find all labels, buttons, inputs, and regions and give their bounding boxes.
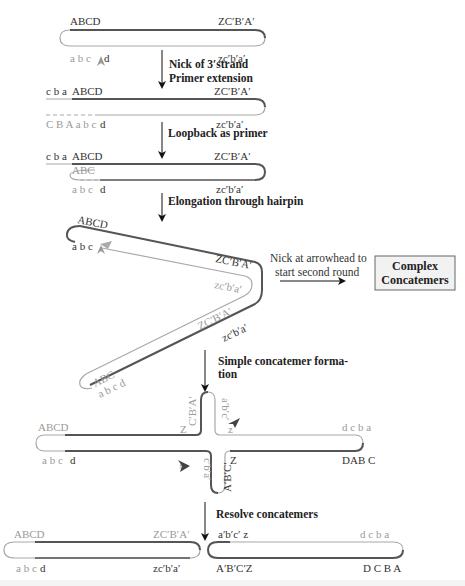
s5-left-top: ABCD — [38, 421, 69, 433]
s2-top-left: ABCD — [72, 85, 103, 97]
s6-left-bottom-right: zc′b′a′ — [153, 562, 180, 574]
s6-right-top-left: a′b′c′ z — [218, 528, 248, 540]
step-2-line1: Loopback as primer — [168, 127, 268, 140]
s6-right-top-right: d c b a — [360, 528, 389, 540]
s2-top-pre: c b a — [46, 85, 67, 97]
s6-right-bottom-right: D C B A — [363, 562, 401, 574]
s5-left-bottom-d: d — [70, 454, 76, 466]
s1-bottom-left: a b c — [70, 52, 91, 64]
stage-5-cross: ABCD a b c d C′B′A′ a′b′c′ Z z z c′b′a′ … — [36, 392, 375, 493]
s6-left-top-left: ABCD — [14, 528, 45, 540]
s1-bottom-d: d — [104, 52, 110, 64]
s5-lower-arm-right: A′B′C′ — [221, 462, 233, 492]
s5-z4: Z — [230, 454, 237, 466]
s5-z1: Z — [180, 423, 187, 435]
step-3: Elongation through hairpin — [162, 193, 304, 218]
s6-right-bottom-left: A′B′C′Z — [216, 562, 253, 574]
stage-2-hairpin: c b a ABCD ZC′B′A′ C B A a b c d zc′b′a′ — [46, 85, 265, 130]
s4-diag-upper: ZC′B′A′ — [196, 305, 234, 332]
s5-upper-arm-right: a′b′c′ — [220, 398, 232, 420]
step-4-line2: tion — [218, 368, 238, 380]
caption-strip — [0, 580, 465, 586]
s4-mid-lower: zc′b′a′ — [214, 278, 243, 295]
s3-top-left: ABCD — [72, 150, 103, 162]
s4-mid-upper: ZC′B′A′ — [215, 252, 253, 271]
s5-right-bottom: DAB C — [342, 454, 375, 466]
s5-lower-arm-left: c′b′a′ — [202, 458, 214, 480]
box-line1: Complex — [392, 259, 438, 273]
stage-6-right-hairpin: a′b′c′ z d c b a A′B′C′Z D C B A — [208, 528, 403, 574]
s5-upper-arm-left: C′B′A′ — [186, 396, 198, 426]
s5-z2: z — [228, 423, 233, 435]
side-note-line1: Nick at arrowhead to — [270, 252, 367, 264]
s6-left-bottom-d: d — [40, 562, 46, 574]
s4-diag-lower: zc′b′a′ — [220, 321, 250, 344]
side-note-line2: start second round — [275, 266, 360, 278]
step-5-line1: Resolve concatemers — [216, 508, 318, 520]
complex-concatemers-box: Complex Concatemers — [375, 256, 455, 290]
s2-bottom-d: d — [100, 118, 106, 130]
step-4-line1: Simple concatemer forma- — [218, 355, 348, 368]
s3-inner-left: ABC — [72, 164, 95, 176]
s2-top-right: ZC′B′A′ — [214, 85, 251, 97]
s4-top-left-lower: a b c — [72, 240, 93, 252]
step-1-line2: Primer extension — [169, 72, 253, 84]
s2-bottom-left: C B A a b c — [46, 118, 97, 130]
s6-left-top-right: ZC′B′A′ — [153, 528, 190, 540]
s1-top-right: ZC′B′A′ — [218, 15, 255, 27]
second-round-note: Nick at arrowhead to start second round — [270, 252, 367, 281]
s3-bottom-d: d — [100, 183, 106, 195]
s3-bottom-left: a b c — [72, 183, 93, 195]
s3-top-right: ZC′B′A′ — [214, 150, 251, 162]
s5-right-top: d c b a — [342, 421, 371, 433]
s3-top-pre: c b a — [46, 150, 67, 162]
stage-6-left-hairpin: ABCD ZC′B′A′ a b c d zc′b′a′ — [4, 528, 200, 574]
box-line2: Concatemers — [381, 273, 449, 287]
step-4: Simple concatemer forma- tion — [205, 350, 348, 388]
s5-left-bottom: a b c — [42, 454, 63, 466]
s3-bottom-right: zc′b′a′ — [216, 183, 243, 195]
concatemer-diagram: ABCD ZC′B′A′ a b c d zc′b′a′ Nick of 3′s… — [0, 0, 465, 586]
s1-top-left: ABCD — [70, 15, 101, 27]
step-1-line1: Nick of 3′strand — [169, 58, 249, 70]
step-3-line1: Elongation through hairpin — [168, 195, 304, 208]
s6-left-bottom-left: a b c — [16, 562, 37, 574]
stage-3-hairpin: c b a ABCD ZC′B′A′ ABC a b c d zc′b′a′ — [46, 150, 265, 195]
